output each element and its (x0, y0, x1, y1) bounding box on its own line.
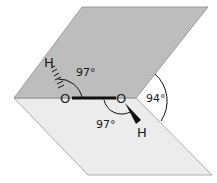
angle-label-dihedral: 94° (146, 92, 166, 105)
h2o2-structure-diagram: O O H H 97° 97° 94° (0, 0, 217, 183)
atom-o-left: O (60, 91, 70, 106)
bottom-plane (14, 98, 212, 175)
angle-label-upper: 97° (76, 66, 96, 79)
atom-h-bottom: H (137, 125, 147, 140)
angle-label-lower: 97° (96, 118, 116, 131)
atom-o-right: O (116, 91, 126, 106)
atom-h-top: H (44, 55, 54, 70)
top-plane (14, 7, 208, 98)
